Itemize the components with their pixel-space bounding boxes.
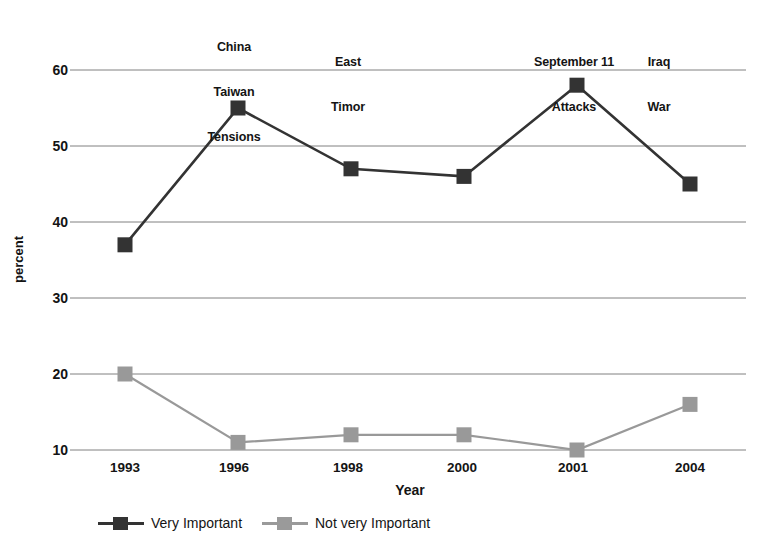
annotation-china-taiwan-tensions: China Taiwan Tensions (174, 10, 294, 175)
x-tick-1998: 1998 (308, 460, 388, 475)
data-point-1998-s1[interactable] (344, 161, 359, 176)
annotation-line: Iraq (624, 55, 694, 70)
annotation-east-timor: East Timor (288, 25, 408, 145)
annotation-line: East (288, 55, 408, 70)
y-tick-50: 50 (28, 138, 68, 154)
data-point-2004-s2[interactable] (683, 397, 698, 412)
data-point-2004-s1[interactable] (683, 177, 698, 192)
y-tick-30: 30 (28, 290, 68, 306)
legend-swatch-icon (262, 516, 308, 530)
annotation-line: Tensions (174, 130, 294, 145)
y-tick-10: 10 (28, 442, 68, 458)
annotation-line: China (174, 40, 294, 55)
x-tick-2004: 2004 (650, 460, 730, 475)
y-tick-40: 40 (28, 214, 68, 230)
x-tick-1996: 1996 (194, 460, 274, 475)
data-point-2000-s1[interactable] (457, 169, 472, 184)
legend-label: Not very Important (315, 515, 430, 531)
x-tick-1993: 1993 (85, 460, 165, 475)
data-point-1998-s2[interactable] (344, 427, 359, 442)
x-axis-title: Year (350, 482, 470, 498)
data-point-1993-s2[interactable] (118, 367, 133, 382)
legend-label: Very Important (151, 515, 242, 531)
data-point-2001-s2[interactable] (570, 443, 585, 458)
legend-item-not-very-important[interactable]: Not very Important (262, 514, 430, 532)
annotation-line: Taiwan (174, 85, 294, 100)
y-axis-title: percent (11, 220, 26, 300)
legend-item-very-important[interactable]: Very Important (98, 514, 242, 532)
data-point-1996-s2[interactable] (231, 435, 246, 450)
annotation-line: September 11 (506, 55, 642, 70)
annotation-line: Attacks (506, 100, 642, 115)
annotation-line: Timor (288, 100, 408, 115)
x-tick-2000: 2000 (422, 460, 502, 475)
legend-swatch-icon (98, 516, 144, 530)
annotation-september-11-attacks: September 11 Attacks (506, 25, 642, 145)
y-tick-20: 20 (28, 366, 68, 382)
data-point-1993-s1[interactable] (118, 237, 133, 252)
series-line-2 (125, 374, 690, 450)
y-tick-60: 60 (28, 62, 68, 78)
annotation-iraq-war: Iraq War (624, 25, 694, 145)
annotation-line: War (624, 100, 694, 115)
x-tick-2001: 2001 (533, 460, 613, 475)
data-point-2000-s2[interactable] (457, 427, 472, 442)
line-chart: 60 50 40 30 20 10 1993 1996 1998 2000 20… (0, 0, 760, 556)
